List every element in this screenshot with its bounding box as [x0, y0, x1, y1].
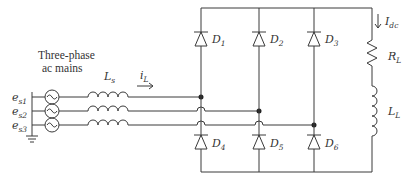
load-resistor-label: RL [387, 50, 401, 65]
diode-d5-icon [252, 135, 266, 149]
diode-d1-icon [194, 32, 208, 46]
source-label-es1: es1 [12, 91, 27, 106]
source-title-line2: ac mains [42, 62, 83, 74]
inductor-icon [88, 120, 128, 125]
diode-label-d3: D3 [324, 33, 339, 48]
resistor-icon [367, 40, 377, 66]
inductor-icon [88, 106, 128, 111]
diode-label-d5: D5 [269, 137, 284, 152]
diode-label-d2: D2 [269, 33, 284, 48]
source-label-es3: es3 [12, 119, 27, 134]
diode-label-d1: D1 [211, 33, 226, 48]
load-branch [367, 8, 377, 172]
source-label-es2: es2 [12, 105, 27, 120]
line-current-label: iL [140, 69, 149, 84]
diode-d2-icon [252, 32, 266, 46]
diode-label-d4: D4 [211, 137, 226, 152]
line-inductor-label: Ls [103, 70, 115, 85]
phase-1-line [32, 90, 204, 104]
load-inductor-label: LL [387, 105, 400, 120]
source-title-line1: Three-phase [38, 49, 95, 62]
phase-2-line [32, 104, 262, 118]
rectifier-circuit: Three-phase ac mains es1 es2 es3 [0, 0, 412, 182]
diode-d6-icon [307, 135, 321, 149]
diode-d4-icon [194, 135, 208, 149]
load-inductor-icon [372, 86, 377, 136]
dc-current-arrow-icon [375, 14, 381, 28]
phase-3-line [32, 118, 317, 132]
dc-current-label: Idc [384, 15, 399, 30]
inductor-icon [88, 92, 128, 97]
diode-d3-icon [307, 32, 321, 46]
diode-label-d6: D6 [324, 137, 339, 152]
neutral-ground [26, 92, 38, 142]
